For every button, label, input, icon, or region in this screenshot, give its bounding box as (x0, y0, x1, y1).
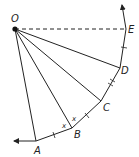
label-B: B (74, 129, 81, 140)
point-O (12, 26, 17, 31)
segment-OD (15, 29, 120, 68)
path-curve (36, 5, 126, 141)
segment-OC (15, 29, 101, 101)
segment-OA (15, 29, 36, 141)
label-O: O (11, 13, 19, 24)
label-E: E (128, 24, 135, 35)
geometry-diagram: O E D C B A x x (0, 0, 139, 157)
angle-label-x2: x (71, 115, 77, 123)
angle-label-x1: x (61, 122, 67, 130)
label-D: D (121, 65, 129, 76)
label-A: A (33, 145, 41, 156)
segment-OB (15, 29, 72, 128)
label-C: C (103, 102, 110, 113)
